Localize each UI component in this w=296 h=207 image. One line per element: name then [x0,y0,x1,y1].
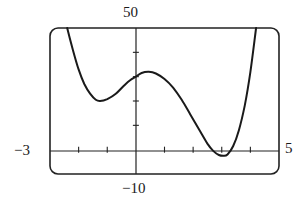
plot-area [0,0,296,207]
xmin-label: −3 [14,143,30,158]
x-axis-ticks [79,147,251,153]
function-curve [67,28,256,156]
xmax-label: 5 [285,141,293,156]
ymin-label: −10 [122,181,145,196]
ymax-label: 50 [123,5,138,20]
